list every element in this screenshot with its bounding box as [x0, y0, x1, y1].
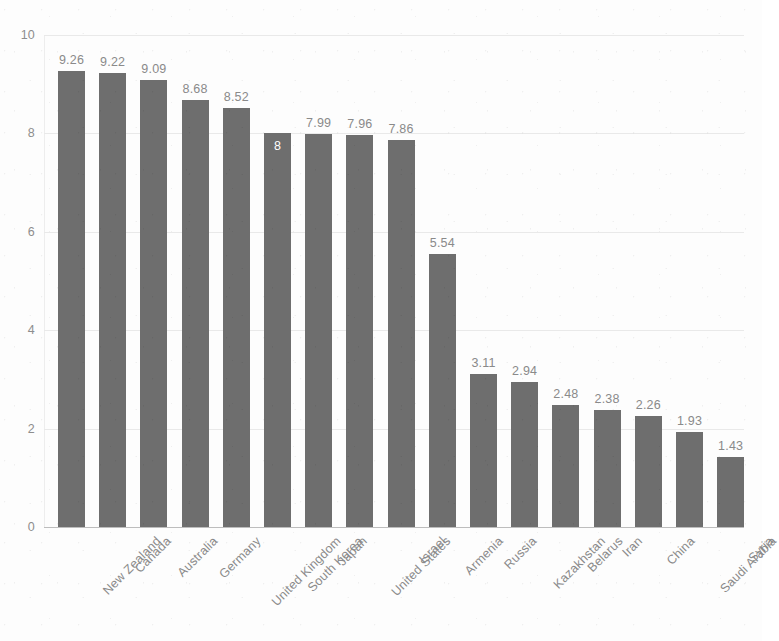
- bar: 7.96: [346, 135, 373, 527]
- x-axis-category-label: China: [664, 534, 698, 568]
- bar-value-label: 8: [274, 139, 281, 153]
- bar-value-label: 8.52: [224, 90, 249, 104]
- bar: 8: [264, 133, 291, 527]
- bar-value-label: 3.11: [471, 356, 495, 370]
- y-axis-tick-label: 10: [21, 28, 35, 42]
- x-axis-category-label: Armenia: [462, 534, 506, 578]
- bar-value-label: 2.48: [553, 387, 578, 401]
- bar: 8.52: [223, 108, 250, 527]
- x-axis-category-label: Australia: [175, 534, 221, 580]
- bar: 9.22: [99, 73, 126, 527]
- bar-value-label: 7.86: [389, 122, 414, 136]
- y-axis-line: [44, 35, 45, 527]
- x-axis-category-label: Iran: [620, 534, 646, 560]
- bar-value-label: 7.96: [347, 117, 372, 131]
- x-axis-category-label: Germany: [217, 534, 264, 581]
- plot-area: 0246810 9.269.229.098.688.5287.997.967.8…: [44, 35, 744, 527]
- bar: 1.93: [676, 432, 703, 527]
- gridline: [44, 35, 744, 36]
- bar: 9.09: [140, 80, 167, 527]
- bar: 3.11: [470, 374, 497, 527]
- bar-value-label: 5.54: [430, 236, 455, 250]
- bar-value-label: 2.94: [512, 364, 537, 378]
- y-axis-tick-label: 4: [28, 323, 35, 337]
- bar-value-label: 1.43: [718, 439, 743, 453]
- bar-value-label: 9.09: [141, 62, 166, 76]
- bar-value-label: 1.93: [677, 414, 702, 428]
- bar: 1.43: [717, 457, 744, 527]
- y-axis-tick-label: 8: [28, 126, 35, 140]
- bar: 5.54: [429, 254, 456, 527]
- bar-value-label: 9.22: [100, 55, 125, 69]
- bar: 2.48: [552, 405, 579, 527]
- y-axis-tick-label: 0: [28, 520, 35, 534]
- bar: 2.38: [594, 410, 621, 527]
- y-axis-tick-label: 6: [28, 225, 35, 239]
- x-axis-line: [44, 527, 744, 528]
- bar-value-label: 9.26: [59, 53, 84, 67]
- bar: 9.26: [58, 71, 85, 527]
- bar: 7.99: [305, 134, 332, 527]
- x-axis-category-label: Russia: [501, 534, 539, 572]
- bar-value-label: 2.38: [595, 392, 620, 406]
- bar: 7.86: [388, 140, 415, 527]
- bar: 2.26: [635, 416, 662, 527]
- bar-value-label: 2.26: [636, 398, 661, 412]
- bar: 8.68: [182, 100, 209, 527]
- bar: 2.94: [511, 382, 538, 527]
- y-axis-tick-label: 2: [28, 422, 35, 436]
- bar-value-label: 7.99: [306, 116, 331, 130]
- bar-value-label: 8.68: [183, 82, 208, 96]
